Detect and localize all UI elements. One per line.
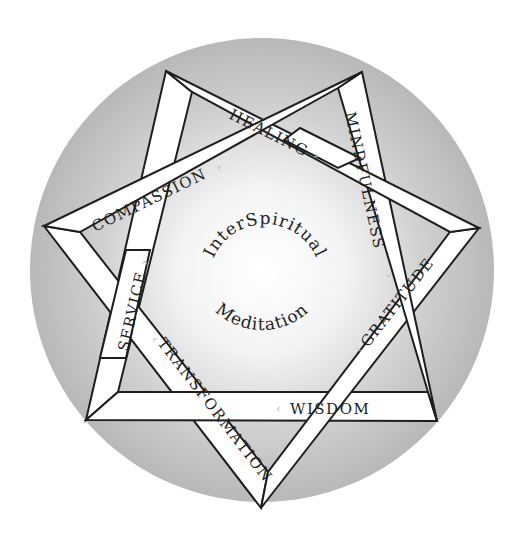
band-wisdom xyxy=(86,392,437,421)
arrow-wisdom-icon: ‹ xyxy=(276,401,281,416)
interspiritual-meditation-diagram: HEALING › MINDFULNESS › GRATITUDE ‹ WISD… xyxy=(0,0,521,541)
label-wisdom: WISDOM xyxy=(290,400,370,418)
